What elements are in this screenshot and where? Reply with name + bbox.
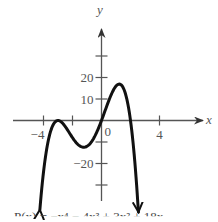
- polynomial-graph: −44−2010200 x y: [0, 0, 218, 222]
- y-tick-label: 20: [81, 70, 94, 85]
- axes: [13, 29, 203, 201]
- x-tick-label: −4: [31, 127, 45, 142]
- x-axis-label: x: [205, 112, 212, 127]
- x-tick-label: 4: [156, 127, 163, 142]
- y-tick-label: −20: [73, 156, 93, 171]
- origin-label: 0: [105, 124, 112, 139]
- y-axis-label: y: [95, 2, 103, 17]
- y-tick-label: 10: [81, 92, 94, 107]
